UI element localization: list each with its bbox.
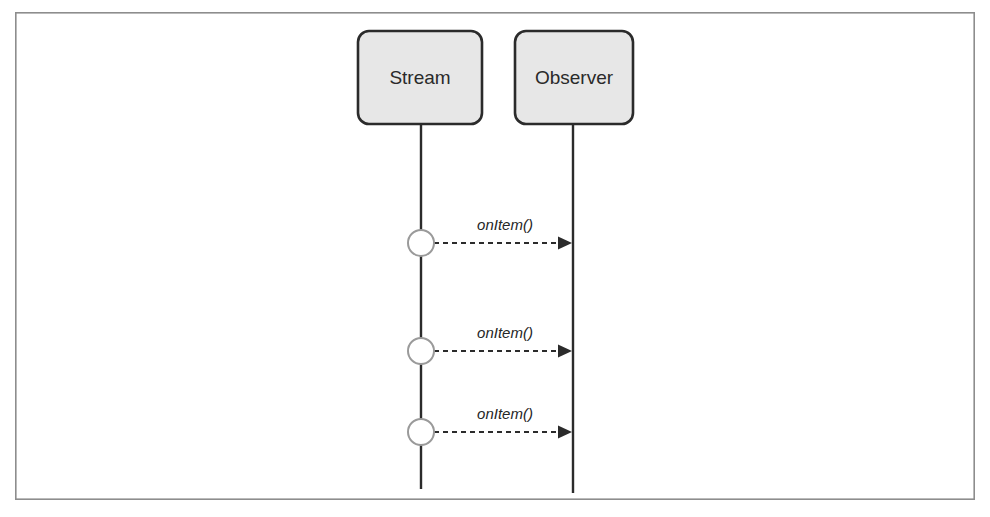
event-marker-2[interactable] [408, 338, 434, 364]
event-marker-3[interactable] [408, 419, 434, 445]
sequence-diagram: Stream Observer onItem() onItem() onItem… [0, 0, 990, 517]
diagram-frame [16, 13, 974, 499]
event-marker-1[interactable] [408, 230, 434, 256]
participant-label-stream: Stream [389, 67, 450, 88]
diagram-canvas: Stream Observer onItem() onItem() onItem… [0, 0, 990, 517]
message-label-1: onItem() [477, 216, 533, 233]
message-label-3: onItem() [477, 405, 533, 422]
message-label-2: onItem() [477, 324, 533, 341]
participant-label-observer: Observer [535, 67, 614, 88]
